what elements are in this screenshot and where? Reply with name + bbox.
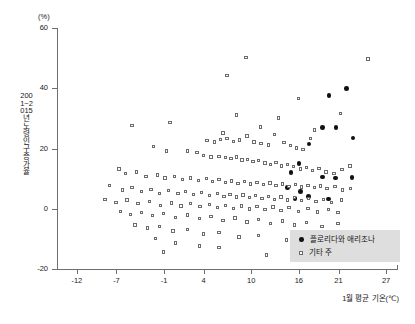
x-axis-line xyxy=(57,269,398,270)
data-point-open xyxy=(252,140,255,143)
data-point-filled xyxy=(344,86,349,91)
data-point-open xyxy=(216,206,219,209)
data-point-open xyxy=(189,202,192,205)
data-point-open xyxy=(181,178,184,181)
data-point-open xyxy=(279,209,282,212)
data-point-open xyxy=(255,181,258,184)
data-point-open xyxy=(119,210,122,213)
data-point-open xyxy=(125,198,128,201)
data-point-open xyxy=(277,116,280,119)
data-point-open xyxy=(162,250,165,253)
data-point-open xyxy=(124,172,127,175)
data-point-open xyxy=(168,121,171,124)
data-point-filled xyxy=(307,142,312,147)
data-point-open xyxy=(174,241,177,244)
open-square-icon xyxy=(299,251,303,255)
data-point-open xyxy=(341,188,344,191)
chart-legend: 플로리다와 애리조나 기타 주 xyxy=(290,230,400,262)
data-point-open xyxy=(133,223,136,226)
data-point-open xyxy=(213,140,216,143)
data-point-open xyxy=(117,167,120,170)
data-point-open xyxy=(167,189,170,192)
data-point-open xyxy=(236,182,239,185)
data-point-open xyxy=(174,216,177,219)
data-point-open xyxy=(300,199,303,202)
data-point-open xyxy=(273,198,276,201)
data-point-open xyxy=(232,207,235,210)
data-point-open xyxy=(235,113,238,116)
data-point-open xyxy=(243,180,246,183)
data-point-open xyxy=(332,172,335,175)
data-point-open xyxy=(273,133,276,136)
data-point-open xyxy=(108,184,111,187)
data-point-filled xyxy=(333,176,338,181)
data-point-open xyxy=(217,155,220,158)
data-point-open xyxy=(198,205,201,208)
filled-circle-icon xyxy=(299,237,304,242)
data-point-open xyxy=(202,232,205,235)
data-point-open xyxy=(149,188,152,191)
data-point-open xyxy=(251,160,254,163)
data-point-open xyxy=(154,237,157,240)
data-point-open xyxy=(314,200,317,203)
data-point-open xyxy=(263,208,266,211)
data-point-open xyxy=(130,186,133,189)
data-point-open xyxy=(211,180,214,183)
data-point-open xyxy=(224,156,227,159)
data-point-open xyxy=(325,187,328,190)
x-tick-mark xyxy=(164,269,165,274)
x-axis-title: 1월 평균 기온(℃) xyxy=(342,292,399,303)
data-point-open xyxy=(313,186,316,189)
data-point-open xyxy=(228,193,231,196)
data-point-open xyxy=(293,223,296,226)
data-point-open xyxy=(195,151,198,154)
data-point-open xyxy=(255,205,258,208)
data-point-open xyxy=(238,138,241,141)
legend-item-florida-arizona: 플로리다와 애리조나 xyxy=(299,236,375,244)
x-tick-label: -7 xyxy=(101,277,131,285)
data-point-open xyxy=(259,142,262,145)
data-point-open xyxy=(151,214,154,217)
data-point-open xyxy=(159,204,162,207)
data-point-filled xyxy=(297,161,302,166)
data-point-open xyxy=(300,185,303,188)
data-point-open xyxy=(309,137,312,140)
data-point-open xyxy=(263,161,266,164)
data-point-open xyxy=(179,204,182,207)
data-point-open xyxy=(287,206,290,209)
data-point-open xyxy=(286,198,289,201)
data-point-open xyxy=(121,188,124,191)
x-tick-label: -12 xyxy=(62,277,92,285)
data-point-open xyxy=(274,184,277,187)
data-point-open xyxy=(165,149,168,152)
data-point-open xyxy=(274,161,277,164)
data-point-open xyxy=(317,167,320,170)
data-point-open xyxy=(219,138,222,141)
data-point-open xyxy=(348,164,351,167)
data-point-open xyxy=(281,182,284,185)
data-point-open xyxy=(233,216,236,219)
data-point-filled xyxy=(334,125,339,130)
data-point-open xyxy=(285,238,288,241)
data-point-open xyxy=(114,201,117,204)
data-point-open xyxy=(152,145,155,148)
data-point-open xyxy=(158,225,161,228)
data-point-open xyxy=(136,202,139,205)
data-point-open xyxy=(130,124,133,127)
data-point-open xyxy=(205,139,208,142)
data-point-open xyxy=(313,128,316,131)
data-point-filled xyxy=(350,175,355,180)
data-point-open xyxy=(271,205,274,208)
data-point-open xyxy=(192,193,195,196)
data-point-filled xyxy=(320,175,325,180)
data-point-open xyxy=(162,212,165,215)
data-point-open xyxy=(217,246,220,249)
data-point-open xyxy=(200,191,203,194)
data-point-open xyxy=(257,218,260,221)
y-tick-label: 0 xyxy=(22,205,48,213)
data-point-open xyxy=(324,170,327,173)
data-point-open xyxy=(289,144,292,147)
data-point-open xyxy=(340,168,343,171)
y-tick-label: 60 xyxy=(22,24,48,32)
data-point-open xyxy=(259,125,262,128)
